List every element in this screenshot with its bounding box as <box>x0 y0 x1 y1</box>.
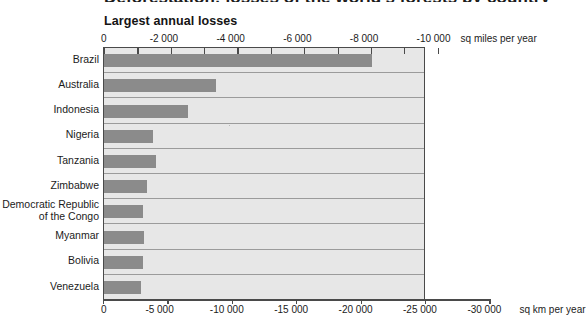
bottom-axis-tick <box>103 299 104 304</box>
top-axis-tick-label: -10 000 <box>417 33 451 44</box>
bottom-axis-tick <box>361 299 362 304</box>
category-axis-labels: BrazilAustraliaIndonesiaNigeriaTanzaniaZ… <box>0 47 99 299</box>
bottom-axis-tick <box>296 299 297 304</box>
bottom-axis-tick <box>232 299 233 304</box>
bottom-axis-tick-label: -20 000 <box>339 304 373 315</box>
bar <box>104 205 143 218</box>
row-separator <box>104 173 424 174</box>
plot-area <box>103 47 425 299</box>
top-axis-minor-tick <box>204 48 205 54</box>
scan-artifact <box>229 125 230 126</box>
bottom-axis-tick-label: -10 000 <box>210 304 244 315</box>
top-axis-tick <box>371 48 372 54</box>
top-axis-tick-label: -6 000 <box>283 33 311 44</box>
category-label: Indonesia <box>0 104 99 116</box>
bottom-axis: 0-5 000-10 000-15 000-20 000-25 000-30 0… <box>103 300 573 318</box>
bottom-axis-unit-label: sq km per year <box>519 304 585 315</box>
top-axis-unit-label: sq miles per year <box>461 33 537 44</box>
bottom-axis-tick-label: -5 000 <box>145 304 173 315</box>
row-separator <box>104 97 424 98</box>
bottom-axis-tick <box>489 299 490 304</box>
row-separator <box>104 198 424 199</box>
row-separator <box>104 223 424 224</box>
bar <box>104 155 156 168</box>
row-separator <box>104 249 424 250</box>
top-axis-minor-tick <box>271 48 272 54</box>
category-label: Bolivia <box>0 255 99 267</box>
top-axis-tick-label: -4 000 <box>216 33 244 44</box>
chart-title: Largest annual losses <box>104 14 237 28</box>
top-axis-tick-label: -8 000 <box>350 33 378 44</box>
category-label: Democratic Republic of the Congo <box>0 199 99 222</box>
top-axis: 0-2 000-4 000-6 000-8 000-10 000sq miles… <box>103 33 573 47</box>
top-axis-tick <box>104 48 105 54</box>
bar <box>104 231 144 244</box>
row-separator <box>104 123 424 124</box>
category-label: Tanzania <box>0 155 99 167</box>
bottom-axis-tick <box>167 299 168 304</box>
category-label: Australia <box>0 79 99 91</box>
top-axis-tick <box>438 48 439 54</box>
top-axis-tick <box>237 48 238 54</box>
bottom-axis-tick <box>425 299 426 304</box>
bar <box>104 54 372 67</box>
bar <box>104 130 153 143</box>
row-separator <box>104 148 424 149</box>
bottom-axis-tick-label: -30 000 <box>467 304 501 315</box>
bar <box>104 256 143 269</box>
cut-off-page-headline: Deforestation: losses of the world's for… <box>104 0 564 2</box>
bar <box>104 105 188 118</box>
bar <box>104 79 216 92</box>
top-axis-tick <box>171 48 172 54</box>
bar <box>104 281 141 294</box>
bottom-axis-tick-label: 0 <box>101 304 107 315</box>
top-axis-minor-tick <box>137 48 138 54</box>
category-label: Nigeria <box>0 129 99 141</box>
top-axis-tick <box>304 48 305 54</box>
top-axis-tick-label: 0 <box>101 33 107 44</box>
category-label: Zimbabwe <box>0 180 99 192</box>
top-axis-minor-tick <box>404 48 405 54</box>
category-label: Myanmar <box>0 230 99 242</box>
row-separator <box>104 72 424 73</box>
category-label: Venezuela <box>0 281 99 293</box>
bottom-axis-tick-label: -15 000 <box>274 304 308 315</box>
row-separator <box>104 274 424 275</box>
bar <box>104 180 147 193</box>
category-label: Brazil <box>0 54 99 66</box>
bottom-axis-tick-label: -25 000 <box>403 304 437 315</box>
top-axis-tick-label: -2 000 <box>150 33 178 44</box>
top-axis-minor-tick <box>338 48 339 54</box>
